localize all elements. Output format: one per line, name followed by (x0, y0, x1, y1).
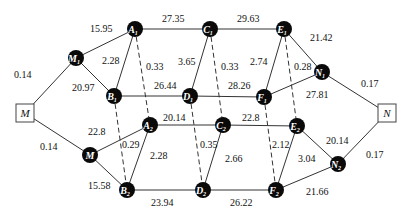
edge-weight-label: 0.29 (122, 139, 140, 150)
edge-C1-C2 (210, 29, 223, 125)
terminal-label: N (382, 107, 391, 119)
edge-weight-label: 29.63 (237, 13, 260, 24)
node-E2: E2 (289, 118, 305, 134)
edge-weight-label: 26.44 (154, 80, 177, 91)
node-N1: N1 (314, 64, 330, 80)
edge-weight-label: 22.8 (88, 126, 106, 137)
edge-weight-label: 0.35 (200, 139, 218, 150)
node-C1: C1 (202, 21, 218, 37)
edge-weight-label: 28.26 (228, 80, 251, 91)
edge-weight-label: 0.33 (221, 61, 239, 72)
edge-weight-label: 26.22 (230, 197, 253, 208)
edge-weight-label: 20.14 (326, 135, 349, 146)
node-B2: B2 (119, 182, 135, 198)
edge-weight-label: 2.66 (225, 153, 243, 164)
edge-weight-label: 2.12 (272, 139, 290, 150)
edge-weight-label: 23.94 (151, 197, 174, 208)
node-F1: F1 (256, 89, 272, 105)
terminals-layer: MN (16, 104, 396, 122)
node-B1: B1 (106, 88, 122, 104)
node-M1: M1 (67, 50, 84, 66)
node-F2: F2 (268, 182, 284, 198)
edge-weights-layer: 0.1415.9520.972.2827.3526.443.6529.6328.… (14, 13, 384, 208)
terminal-label: M (19, 107, 30, 119)
edge-weight-label: 27.35 (162, 13, 185, 24)
edge-D1-F1 (190, 96, 264, 97)
edge-weight-label: 0.17 (366, 149, 384, 160)
node-label: M (85, 150, 96, 161)
node-D2: D2 (195, 182, 211, 198)
edge-weight-label: 15.95 (90, 23, 113, 34)
edge-weight-label: 3.65 (178, 56, 196, 67)
network-diagram: 0.1415.9520.972.2827.3526.443.6529.6328.… (0, 0, 408, 220)
edge-weight-label: 3.04 (298, 153, 316, 164)
edge-A1-A2 (135, 29, 150, 125)
node-D1: D1 (182, 88, 198, 104)
nodes-layer: M1A1B1C1D1E1F1N1MA2B2C2D2E2F2N2 (67, 21, 346, 198)
edge-weight-label: 0.14 (40, 141, 58, 152)
terminal-N_sink: N (378, 104, 396, 122)
edge-weight-label: 20.97 (72, 82, 95, 93)
edge-E1-E2 (284, 29, 297, 126)
edge-weight-label: 0.33 (146, 61, 164, 72)
terminal-M_src: M (16, 104, 34, 122)
edge-weight-label: 0.28 (294, 61, 312, 72)
node-E1: E1 (276, 21, 292, 37)
edge-E2-F2 (276, 126, 297, 190)
edge-weight-label: 21.66 (306, 186, 329, 197)
node-A1: A1 (127, 21, 143, 37)
edge-weight-label: 15.58 (88, 180, 111, 191)
edge-weight-label: 27.81 (306, 89, 329, 100)
node-M2: M (82, 147, 98, 163)
edge-weight-label: 21.42 (310, 32, 333, 43)
edge-weight-label: 0.17 (361, 78, 379, 89)
edge-weight-label: 2.28 (150, 150, 168, 161)
edge-weight-label: 22.8 (242, 112, 260, 123)
node-A2: A2 (142, 117, 158, 133)
edge-C2-D2 (203, 125, 223, 190)
edge-weight-label: 0.14 (14, 69, 32, 80)
edge-weight-label: 2.74 (250, 56, 268, 67)
node-N2: N2 (330, 156, 346, 172)
edge-weight-label: 2.28 (102, 55, 120, 66)
edge-C2-E2 (223, 125, 297, 126)
edge-weight-label: 20.14 (163, 112, 186, 123)
node-C2: C2 (215, 117, 231, 133)
edge-M_src-M2 (25, 113, 90, 155)
